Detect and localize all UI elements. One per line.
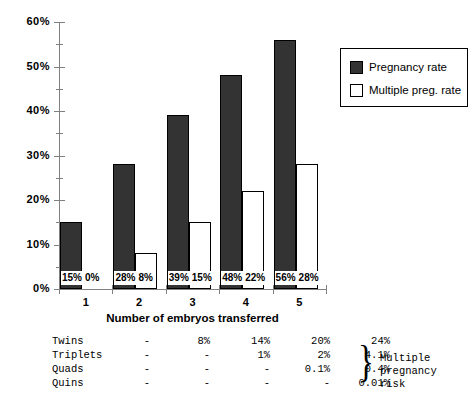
bar-value-labels: 15%0%28%8%39%15%48%22%56%28% bbox=[59, 267, 326, 287]
legend-label-multiple-preg-rate: Multiple preg. rate bbox=[369, 84, 461, 96]
bar-value-label-multiple-preg-rate: 15% bbox=[191, 271, 213, 285]
brace-icon: } bbox=[358, 334, 374, 390]
chart-legend: Pregnancy rate Multiple preg. rate bbox=[340, 48, 468, 107]
x-axis-tick-mark bbox=[112, 285, 113, 294]
y-axis-tick-label: 40% bbox=[14, 104, 50, 116]
x-axis-tick-mark bbox=[273, 285, 274, 294]
legend-item-pregnancy-rate: Pregnancy rate bbox=[350, 59, 447, 75]
table-cell: - bbox=[96, 362, 150, 376]
table-cell: - bbox=[156, 362, 210, 376]
table-cell: - bbox=[156, 348, 210, 362]
table-cell: 20% bbox=[276, 334, 330, 348]
brace-note-line-1: Multiple pregnancy bbox=[380, 352, 476, 378]
bar-pregnancy-rate bbox=[167, 115, 189, 289]
x-axis-category-label: 2 bbox=[124, 296, 154, 308]
y-axis-tick-label: 50% bbox=[14, 60, 50, 72]
bar-value-label-pregnancy-rate: 48% bbox=[221, 271, 243, 285]
bar-pregnancy-rate bbox=[220, 75, 242, 289]
x-axis-tick-mark bbox=[219, 285, 220, 294]
plot-area bbox=[59, 22, 325, 289]
y-axis-tick-label: 60% bbox=[14, 15, 50, 27]
brace-note: Multiple pregnancy risk bbox=[380, 352, 476, 391]
y-axis-tick-label: 20% bbox=[14, 193, 50, 205]
x-axis-category-label: 5 bbox=[284, 296, 314, 308]
table-cell: - bbox=[276, 376, 330, 390]
brace-note-line-2: risk bbox=[380, 378, 476, 391]
bar-value-label-multiple-preg-rate: 28% bbox=[298, 271, 320, 285]
bar-value-label-pregnancy-rate: 56% bbox=[275, 271, 297, 285]
bar-pregnancy-rate bbox=[274, 40, 296, 289]
table-cell: 14% bbox=[216, 334, 270, 348]
table-cell: 8% bbox=[156, 334, 210, 348]
bar-value-label-pregnancy-rate: 28% bbox=[114, 271, 136, 285]
table-cell: - bbox=[96, 334, 150, 348]
table-cell: 1% bbox=[216, 348, 270, 362]
table-cell: - bbox=[216, 362, 270, 376]
table-cell: - bbox=[216, 376, 270, 390]
table-cell: - bbox=[96, 348, 150, 362]
table-cell: 0.1% bbox=[276, 362, 330, 376]
x-axis-category-label: 1 bbox=[71, 296, 101, 308]
legend-item-multiple-preg-rate: Multiple preg. rate bbox=[350, 82, 461, 98]
y-axis-tick-label: 0% bbox=[14, 282, 50, 294]
legend-label-pregnancy-rate: Pregnancy rate bbox=[369, 61, 447, 73]
legend-swatch-icon-pregnancy-rate bbox=[350, 61, 363, 74]
x-axis-title: Number of embryos transferred bbox=[59, 312, 326, 324]
x-axis-category-label: 3 bbox=[178, 296, 208, 308]
x-axis-tick-mark bbox=[166, 285, 167, 294]
bar-value-label-multiple-preg-rate: 0% bbox=[84, 271, 100, 285]
x-axis-category-label: 4 bbox=[231, 296, 261, 308]
chart-container: 0%10%20%30%40%50%60% 15%0%28%8%39%15%48%… bbox=[0, 0, 476, 399]
table-cell: - bbox=[96, 376, 150, 390]
x-axis-tick-mark bbox=[59, 285, 60, 294]
legend-swatch-icon-multiple-preg-rate bbox=[350, 84, 363, 97]
x-axis-tick-mark bbox=[326, 285, 327, 294]
bar-value-label-multiple-preg-rate: 8% bbox=[137, 271, 153, 285]
x-axis-line bbox=[59, 289, 326, 290]
table-cell: 2% bbox=[276, 348, 330, 362]
table-cell: - bbox=[156, 376, 210, 390]
y-axis-tick-label: 10% bbox=[14, 238, 50, 250]
bar-value-label-pregnancy-rate: 39% bbox=[168, 271, 190, 285]
bar-value-label-pregnancy-rate: 15% bbox=[61, 271, 83, 285]
table-row: Twins-8%14%20%24% bbox=[0, 334, 476, 348]
y-axis-tick-label: 30% bbox=[14, 149, 50, 161]
bar-value-label-multiple-preg-rate: 22% bbox=[244, 271, 266, 285]
